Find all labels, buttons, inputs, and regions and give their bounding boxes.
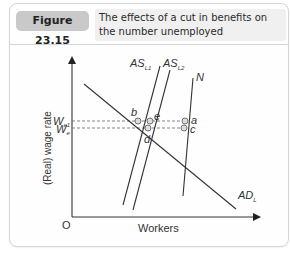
labour-market-diagram: b e a d c ASL1 ASL2 N ADL We1 We (Real) … [0, 0, 290, 255]
y-axis-label: (Real) wage rate [42, 111, 53, 185]
as-l2-curve [133, 70, 170, 210]
as-l1-curve [123, 66, 160, 205]
point-a [182, 118, 188, 124]
n-curve [183, 78, 193, 196]
point-e-label: e [154, 110, 160, 122]
x-axis-label: Workers [138, 222, 179, 234]
point-e [147, 118, 153, 124]
point-b [135, 118, 141, 124]
point-c-label: c [190, 123, 196, 135]
n-label: N [196, 71, 204, 83]
as-l1-label: ASL1 [129, 57, 151, 71]
point-d-label: d [144, 133, 151, 145]
point-b-label: b [131, 106, 137, 118]
ad-label: ADL [237, 189, 257, 203]
origin-label: O [62, 219, 71, 231]
as-l2-label: ASL2 [162, 57, 185, 71]
point-d [145, 125, 151, 131]
ad-curve [84, 84, 236, 209]
point-c [181, 125, 187, 131]
